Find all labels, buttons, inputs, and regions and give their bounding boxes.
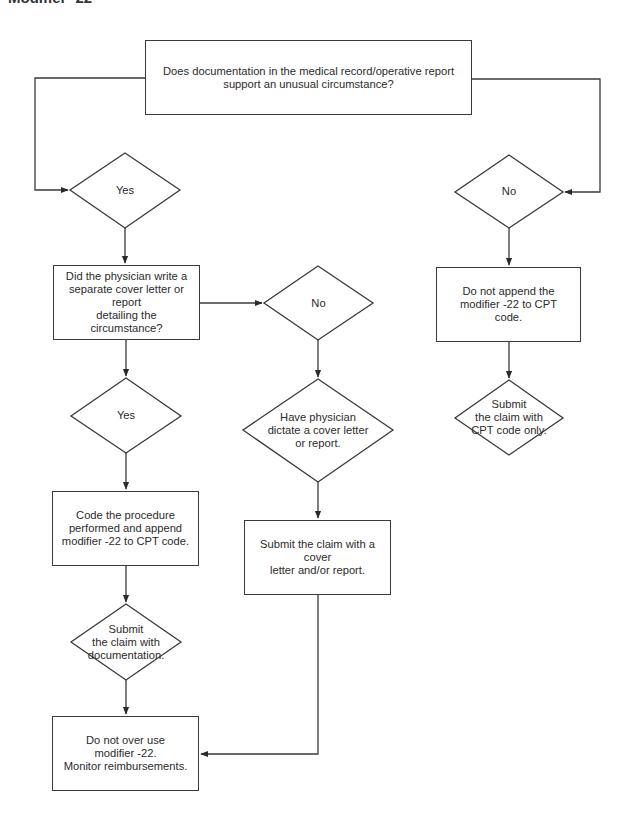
have-physician-text: Have physician dictate a cover letter or… [268,411,369,450]
submit-cpt-only-text: Submit the claim with CPT code only. [471,398,546,437]
no-1-label: No [455,155,563,228]
submit-cpt-only-label: Submit the claim with CPT code only. [455,380,563,455]
yes-2-label: Yes [71,378,181,453]
yes-2-text: Yes [117,409,135,422]
yes-1-text: Yes [116,184,134,197]
do-not-append-box: Do not append the modifier -22 to CPT co… [436,267,581,342]
submit-documentation-text: Submit the claim with documentation. [88,623,165,662]
do-not-append-text: Do not append the modifier -22 to CPT co… [445,285,572,324]
no-1-text: No [502,185,516,198]
submit-cover-letter-text: Submit the claim with a cover letter and… [253,538,382,577]
code-procedure-text: Code the procedure performed and append … [62,509,189,548]
submit-documentation-label: Submit the claim with documentation. [71,604,181,680]
start-question-text: Does documentation in the medical record… [163,65,454,91]
start-question-box: Does documentation in the medical record… [145,40,472,115]
have-physician-label: Have physician dictate a cover letter or… [243,379,393,482]
cover-letter-question-box: Did the physician write a separate cover… [53,265,200,340]
do-not-overuse-box: Do not over use modifier -22. Monitor re… [52,716,199,791]
no-2-text: No [311,297,325,310]
do-not-overuse-text: Do not over use modifier -22. Monitor re… [64,734,188,773]
cover-letter-question-text: Did the physician write a separate cover… [62,270,191,335]
submit-cover-letter-box: Submit the claim with a cover letter and… [244,520,391,595]
no-2-label: No [264,266,373,340]
code-procedure-box: Code the procedure performed and append … [52,491,199,566]
yes-1-label: Yes [70,153,180,228]
